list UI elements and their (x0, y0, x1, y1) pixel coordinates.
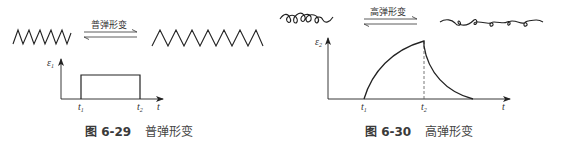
equilibrium-arrow-icon (364, 17, 417, 27)
t2-label: t2 (421, 101, 427, 113)
figure-6-29: 普弹形变 ε1 t1 t2 t (13, 19, 263, 113)
caption-number: 图 6-29 (85, 125, 131, 139)
arrow-label-high-elastic: 高弹形变 (370, 6, 406, 17)
strain-curve (364, 41, 473, 99)
caption-figure-6-29: 图 6-29普弹形变 (85, 122, 193, 139)
figure-6-30: 高弹形变 ε2 t1 t2 t (280, 6, 543, 113)
t1-label: t1 (78, 101, 84, 113)
x-axis-label: t (502, 101, 505, 112)
coiled-chain-icon (280, 13, 333, 23)
y-axis-label: ε1 (47, 57, 54, 69)
compressed-chain-icon (13, 30, 71, 44)
caption-figure-6-30: 图 6-30高弹形变 (365, 122, 473, 139)
extended-chain-icon (440, 19, 543, 26)
y-axis-label: ε2 (315, 36, 322, 48)
t1-label: t1 (361, 101, 367, 113)
x-axis-label: t (157, 101, 160, 112)
stretched-chain-icon (152, 30, 263, 46)
strain-curve (81, 75, 140, 99)
caption-number: 图 6-30 (365, 125, 411, 139)
arrow-label-elastic: 普弹形变 (91, 19, 127, 30)
t2-label: t2 (137, 101, 143, 113)
caption-text: 普弹形变 (145, 125, 193, 139)
equilibrium-arrow-icon (84, 30, 137, 40)
caption-text: 高弹形变 (425, 125, 473, 139)
